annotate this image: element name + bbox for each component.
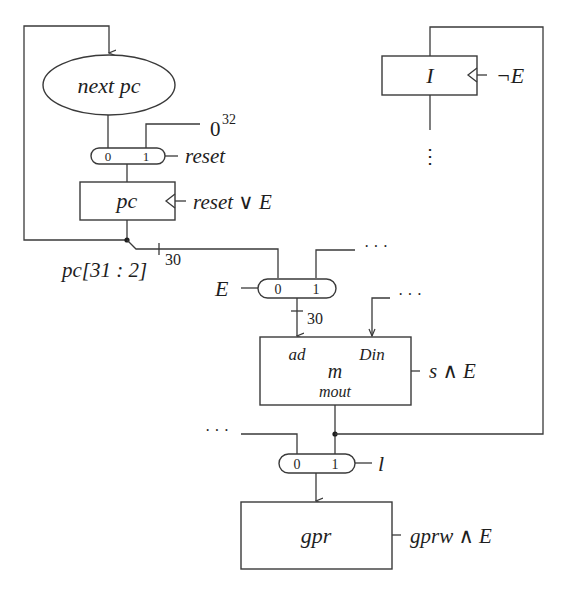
- nextpc-label: next pc: [78, 73, 141, 98]
- reset-mux: 0 1: [91, 148, 165, 164]
- gpr-write-label: gprw ∧ E: [410, 524, 492, 548]
- load-mux-in0: 0: [294, 457, 301, 472]
- addr-mux-in1-wire: [316, 250, 355, 278]
- addr-bus-width: 30: [307, 310, 323, 327]
- ir-out-continuation: ⋮: [420, 145, 440, 167]
- datapath-diagram: next pc 0 32 0 1 reset pc reset ∨ E 30 p…: [0, 0, 561, 593]
- ir-clock-label: ¬E: [496, 63, 525, 88]
- pc-register: pc: [80, 182, 175, 220]
- gpr-unit: gpr: [241, 502, 392, 569]
- gpr-label: gpr: [301, 523, 332, 548]
- memory-unit: ad Din m mout: [260, 337, 411, 405]
- addr-mux-in0: 0: [275, 282, 282, 297]
- din-source: · · ·: [398, 286, 422, 303]
- memory-label: m: [328, 360, 342, 382]
- nextpc-unit: next pc: [43, 55, 175, 115]
- pc-slice-label: pc[31 : 2]: [60, 258, 147, 282]
- pc-slice-width: 30: [165, 251, 181, 268]
- reset-mux-in1: 1: [143, 149, 150, 164]
- addr-mux-in1: 1: [313, 282, 320, 297]
- svg-text:0: 0: [210, 117, 221, 141]
- memory-port-din: Din: [358, 345, 385, 364]
- reset-mux-in0: 0: [105, 149, 112, 164]
- load-mux: 0 1: [279, 454, 355, 473]
- memory-port-mout: mout: [319, 383, 352, 400]
- memory-write-label: s ∧ E: [429, 359, 476, 383]
- load-mux-in0-wire: [241, 434, 297, 454]
- reset-select-label: reset: [185, 144, 226, 168]
- pc-slice-wire: [127, 240, 278, 278]
- pc-clock-label: reset ∨ E: [193, 190, 272, 214]
- load-select-label: l: [378, 451, 384, 476]
- instruction-register: I: [382, 56, 477, 95]
- addr-select-label: E: [214, 276, 229, 301]
- memory-port-ad: ad: [289, 345, 307, 364]
- addr-mux-in1-source: · · ·: [364, 238, 388, 255]
- zero-const-label: 0 32: [210, 112, 236, 141]
- zero-const-exponent: 32: [222, 112, 236, 127]
- pc-label: pc: [115, 188, 138, 213]
- load-mux-in0-source: · · ·: [205, 422, 229, 439]
- addr-mux: 0 1: [258, 279, 336, 298]
- load-mux-in1: 1: [332, 457, 339, 472]
